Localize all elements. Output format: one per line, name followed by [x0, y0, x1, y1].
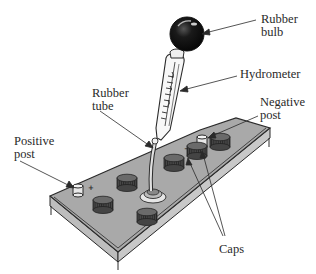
cap [137, 208, 157, 225]
label-line: post [14, 148, 54, 161]
cap [117, 174, 137, 191]
label-rubber-bulb: Rubber bulb [261, 13, 298, 39]
label-rubber-tube: Rubber tube [92, 87, 129, 113]
label-negative-post: Negative post [260, 96, 305, 122]
label-positive-post: Positive post [14, 135, 54, 161]
label-line: post [260, 109, 305, 122]
positive-mark: + [88, 184, 94, 192]
cap [93, 196, 113, 213]
label-caps: Caps [219, 243, 244, 256]
label-line: tube [92, 100, 129, 113]
rubber-bulb [170, 17, 204, 51]
hydrometer-diagram: + − [0, 0, 316, 274]
cap [164, 154, 184, 171]
label-hydrometer: Hydrometer [240, 68, 300, 81]
hydrometer [156, 49, 184, 140]
label-line: bulb [261, 26, 298, 39]
positive-post [73, 184, 83, 197]
